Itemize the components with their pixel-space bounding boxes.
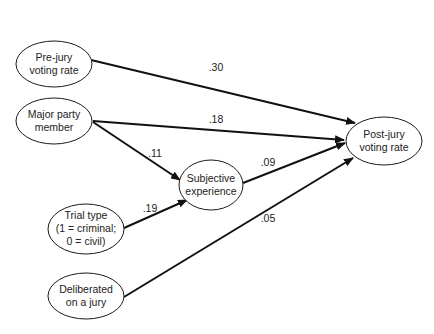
- node-label: Post-jury: [363, 128, 405, 140]
- node-trial-type: Trial type (1 = criminal; 0 = civil): [48, 204, 124, 254]
- edge-party-to-subj: [93, 122, 180, 180]
- edge-label-party-to-subj: .11: [148, 147, 162, 159]
- edge-subj-to-post: [243, 143, 345, 183]
- node-label: (1 = criminal;: [56, 222, 116, 234]
- edge-label-pre-to-post: .30: [209, 61, 224, 73]
- node-subjective-experience: Subjective experience: [179, 160, 243, 210]
- node-label: on a jury: [66, 296, 107, 308]
- node-label: Pre-jury: [36, 51, 74, 63]
- edge-label-party-to-post: .18: [209, 113, 224, 125]
- path-diagram: .30 .18 .11 .19 .09 .05 Pre-jury voting …: [0, 0, 434, 334]
- edge-label-delib-to-post: .05: [261, 212, 276, 224]
- node-pre-jury-voting-rate: Pre-jury voting rate: [16, 41, 92, 87]
- edge-label-trial-to-subj: .19: [143, 202, 158, 214]
- node-label: voting rate: [359, 141, 408, 153]
- node-label: Subjective: [187, 172, 236, 184]
- node-label: 0 = civil): [67, 235, 106, 247]
- node-post-jury-voting-rate: Post-jury voting rate: [346, 117, 422, 165]
- node-label: Deliberated: [59, 283, 113, 295]
- node-label: Trial type: [65, 209, 108, 221]
- node-label: member: [35, 121, 74, 133]
- node-label: voting rate: [29, 64, 78, 76]
- node-label: Major party: [28, 108, 81, 120]
- node-deliberated-on-a-jury: Deliberated on a jury: [48, 273, 124, 319]
- edge-label-subj-to-post: .09: [261, 156, 276, 168]
- node-label: experience: [185, 185, 237, 197]
- node-major-party-member: Major party member: [16, 98, 92, 144]
